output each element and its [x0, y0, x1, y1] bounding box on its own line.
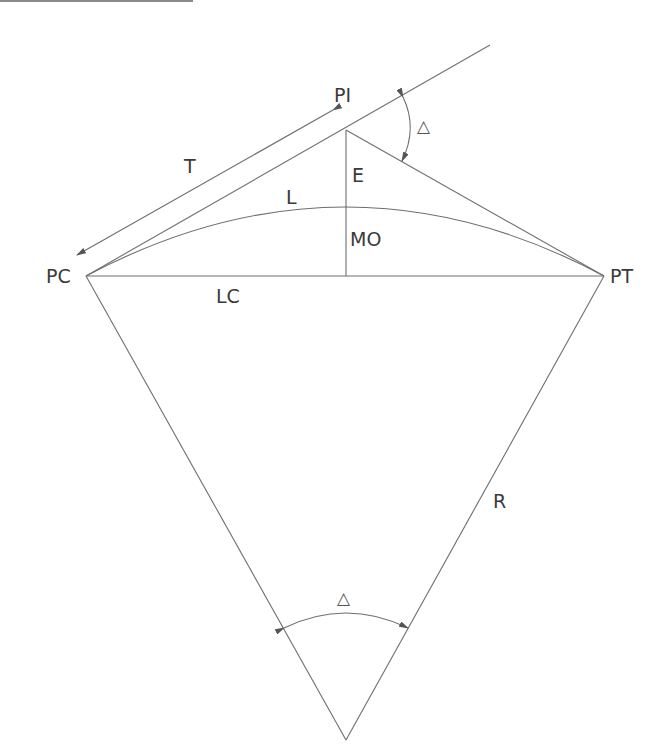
radius-left-line	[86, 276, 346, 740]
label-external: E	[352, 166, 364, 185]
label-long-chord: LC	[216, 287, 240, 306]
forward-tangent-line	[346, 130, 604, 276]
label-pi: PI	[334, 86, 351, 105]
label-pc: PC	[46, 267, 71, 286]
delta-bottom-icon: △	[337, 590, 350, 607]
label-length: L	[286, 188, 297, 207]
tangent-dimension-line	[77, 110, 333, 255]
curve-arc	[86, 207, 604, 276]
delta-arc-bottom	[284, 613, 408, 628]
label-pt: PT	[610, 267, 633, 286]
radius-right-line	[346, 276, 604, 740]
curve-diagram	[0, 0, 668, 749]
label-tangent: T	[184, 157, 196, 176]
label-radius: R	[493, 492, 506, 511]
delta-top-icon: △	[417, 118, 430, 135]
delta-arc-top	[402, 97, 410, 161]
tangent-line	[86, 45, 490, 276]
label-middle-ordinate: MO	[350, 230, 381, 249]
